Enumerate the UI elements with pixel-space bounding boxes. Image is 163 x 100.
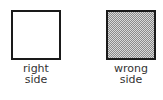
right-side-label-line2: side — [6, 74, 66, 85]
wrong-side-label: wrong side — [101, 63, 161, 85]
right-side-swatch — [11, 10, 61, 60]
wrong-side-label-line2: side — [101, 74, 161, 85]
wrong-side-swatch — [106, 10, 156, 60]
right-side-label: right side — [6, 63, 66, 85]
